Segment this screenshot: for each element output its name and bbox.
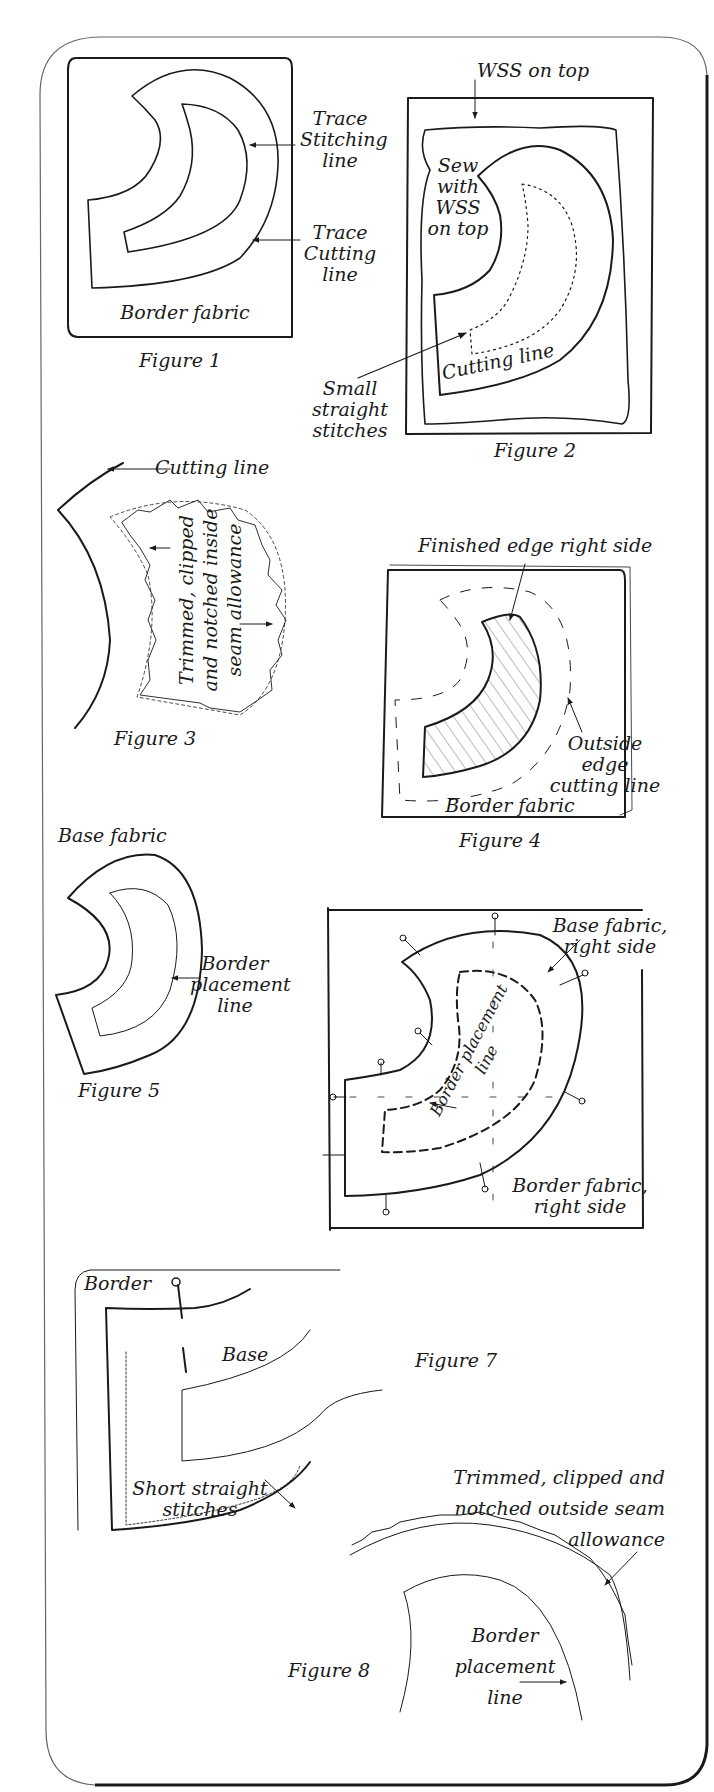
fig8-trimmed-label: Trimmed, clipped and notched outside sea… (430, 1462, 665, 1555)
instruction-card: Trace Stitching line Trace Cutting line … (0, 0, 714, 1792)
figure-1-art (68, 58, 300, 337)
fig8-placement-label: Border placement line (450, 1620, 560, 1713)
fig1-cutting-label: Trace Cutting line (300, 222, 380, 285)
figure-2-art (358, 80, 653, 434)
fig5-placement-label: Border placement line (190, 953, 280, 1016)
fig3-caption: Figure 3 (114, 728, 196, 749)
fig2-wss-top-label: WSS on top (477, 60, 589, 81)
fig5-base-label: Base fabric (58, 825, 167, 846)
figure-3-art (58, 463, 286, 728)
fig7-base-label: Base (222, 1344, 268, 1365)
figure-5-art (56, 855, 202, 1074)
fig7-border-label: Border (84, 1273, 151, 1294)
fig2-small-stitches-label: Small straight stitches (310, 378, 390, 441)
fig3-cutting-label: Cutting line (155, 457, 269, 478)
fig8-caption: Figure 8 (288, 1660, 370, 1681)
fig6-border-label: Border fabric, right side (505, 1175, 655, 1217)
fig3-trimmed-label: Trimmed, clipped and notched inside seam… (174, 485, 246, 715)
fig1-stitching-label: Trace Stitching line (300, 108, 380, 171)
fig1-caption: Figure 1 (120, 350, 240, 371)
fig7-stitches-label: Short straight stitches (125, 1478, 275, 1520)
fig4-fabric-label: Border fabric (440, 795, 580, 816)
fig4-outside-edge-label: Outside edge cutting line (545, 733, 665, 796)
fig2-sew-with-label: Sew with WSS on top (418, 155, 498, 239)
fig2-caption: Figure 2 (475, 440, 595, 461)
fig4-finished-edge-label: Finished edge right side (418, 535, 652, 556)
fig6-base-label: Base fabric, right side (545, 915, 675, 957)
fig4-caption: Figure 4 (440, 830, 560, 851)
fig7-caption: Figure 7 (415, 1350, 497, 1371)
fig5-caption: Figure 5 (78, 1080, 160, 1101)
fig1-fabric-label: Border fabric (110, 302, 260, 323)
